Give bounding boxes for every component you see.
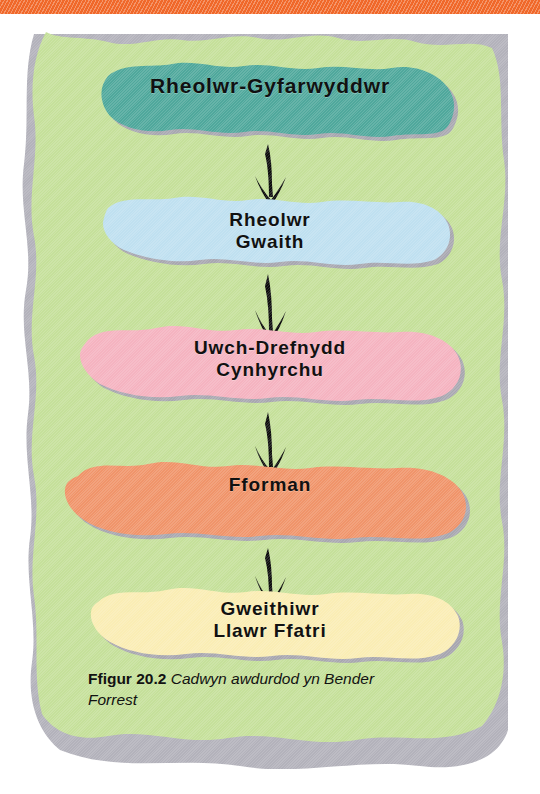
node-label-fforman: Fforman — [110, 474, 430, 496]
orange-rule-stripes — [0, 0, 540, 14]
node-label-gweithiwr-llawr-ffatri: Gweithiwr Llawr Ffatri — [110, 598, 430, 642]
figure-caption: Ffigur 20.2 Cadwyn awdurdod yn Bender Fo… — [88, 669, 418, 711]
figure-page: Rheolwr-Gyfarwyddwr Rheolwr Gwaith Uwch-… — [0, 0, 540, 794]
node-label-rheolwr-gyfarwyddwr: Rheolwr-Gyfarwyddwr — [60, 74, 480, 98]
node-label-uwch-drefnydd-cynhyrchu: Uwch-Drefnydd Cynhyrchu — [80, 337, 460, 381]
figure-caption-number: Ffigur 20.2 — [88, 670, 166, 687]
orange-rule — [0, 0, 540, 14]
node-label-rheolwr-gwaith: Rheolwr Gwaith — [110, 209, 430, 253]
